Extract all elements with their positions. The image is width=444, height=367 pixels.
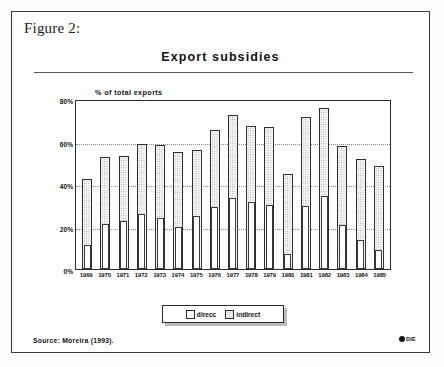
bar-group	[190, 101, 203, 269]
bar-group	[135, 101, 148, 269]
bar-group	[263, 101, 276, 269]
x-axis-tick-label: 1972	[135, 272, 148, 278]
plot-frame: 0%20%40%60%80%	[75, 100, 391, 270]
legend-label: indirect	[236, 311, 260, 318]
y-axis-tick-label: 20%	[60, 225, 73, 232]
chart-legend: direccindirect	[162, 305, 284, 323]
bar-group	[318, 101, 331, 269]
legend-item: direcc	[186, 310, 216, 319]
x-axis-tick-label: 1980	[281, 272, 294, 278]
x-axis-tick-label: 1976	[208, 272, 221, 278]
bar-direct	[248, 202, 255, 269]
x-axis-tick-label: 1982	[318, 272, 331, 278]
bar-direct	[175, 227, 182, 270]
y-axis-tick-label: 80%	[60, 98, 73, 105]
bar-direct	[284, 254, 291, 269]
bar-group	[281, 101, 294, 269]
bar-group	[299, 101, 312, 269]
y-axis-tick-label: 40%	[60, 183, 73, 190]
bar-direct	[302, 206, 309, 269]
x-axis-tick-label: 1983	[336, 272, 349, 278]
bar-group	[117, 101, 130, 269]
plot-area: 0%20%40%60%80% 1969197019711972197319741…	[12, 12, 431, 354]
bar-direct	[211, 207, 218, 269]
x-axis-tick-label: 1973	[153, 272, 166, 278]
x-axis-tick-labels: 1969197019711972197319741975197619771978…	[75, 272, 391, 278]
source-note: Source: Moreira (1993).	[33, 337, 114, 344]
bar-group	[354, 101, 367, 269]
figure-frame: Figure 2: Export subsidies % of total ex…	[11, 11, 430, 353]
bar-group	[99, 101, 112, 269]
x-axis-tick-label: 1969	[80, 272, 93, 278]
bar-direct	[193, 216, 200, 269]
bar-group	[336, 101, 349, 269]
die-logo-text: DIE	[406, 336, 416, 342]
bar-series-container	[76, 101, 390, 269]
legend-label: direcc	[197, 311, 216, 318]
bar-group	[226, 101, 239, 269]
x-axis-tick-label: 1985	[373, 272, 386, 278]
bar-group	[154, 101, 167, 269]
figure-page: Figure 2: Export subsidies % of total ex…	[0, 0, 444, 367]
y-axis-tick-label: 60%	[60, 140, 73, 147]
x-axis-tick-label: 1975	[190, 272, 203, 278]
die-logo: DIE	[399, 336, 416, 342]
bar-direct	[120, 221, 127, 269]
legend-item: indirect	[225, 310, 260, 319]
x-axis-tick-label: 1974	[171, 272, 184, 278]
x-axis-tick-label: 1970	[98, 272, 111, 278]
bar-group	[208, 101, 221, 269]
x-axis-tick-label: 1981	[300, 272, 313, 278]
x-axis-tick-label: 1984	[355, 272, 368, 278]
bar-direct	[266, 205, 273, 269]
bar-direct	[157, 218, 164, 269]
bar-group	[372, 101, 385, 269]
bar-direct	[229, 198, 236, 269]
bar-direct	[339, 225, 346, 269]
bar-direct	[321, 196, 328, 269]
y-axis-tick-label: 0%	[63, 268, 73, 275]
bar-group	[172, 101, 185, 269]
bar-direct	[357, 240, 364, 269]
bar-direct	[84, 245, 91, 269]
bar-direct	[138, 214, 145, 269]
x-axis-tick-label: 1979	[263, 272, 276, 278]
x-axis-tick-label: 1977	[226, 272, 239, 278]
x-axis-tick-label: 1978	[245, 272, 258, 278]
bar-direct	[375, 250, 382, 269]
bar-group	[81, 101, 94, 269]
bar-direct	[102, 224, 109, 269]
x-axis-tick-label: 1971	[116, 272, 129, 278]
legend-swatch-icon	[186, 310, 195, 319]
legend-swatch-icon	[225, 310, 234, 319]
bar-group	[245, 101, 258, 269]
die-logo-dot-icon	[399, 336, 405, 342]
